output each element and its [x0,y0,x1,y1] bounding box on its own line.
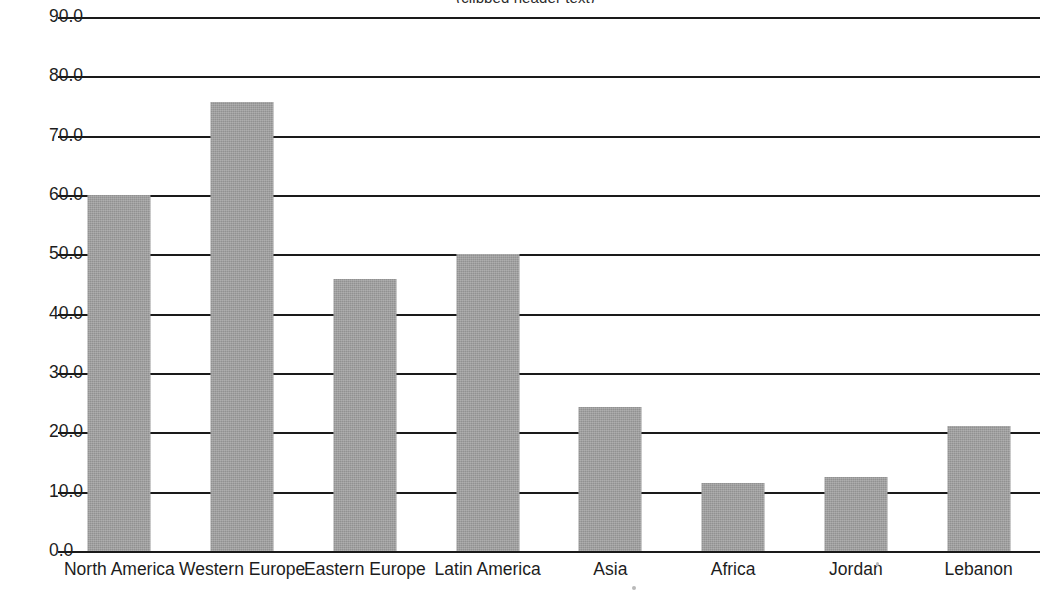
plot-area [58,17,1040,551]
x-axis-label: Jordan [829,560,883,579]
x-axis-label: Asia [593,560,627,579]
bar[interactable] [211,102,274,551]
bar-slot [917,17,1040,551]
x-axis-category-labels: North AmericaWestern EuropeEastern Europ… [58,560,1040,590]
bar-slot [181,17,304,551]
bar-slot [304,17,427,551]
bar-slot [672,17,795,551]
bar[interactable] [456,254,519,551]
bar[interactable] [824,477,887,551]
bar-chart-figure: (clipped header text) 90.080.070.060.050… [0,0,1051,601]
bar-slot [795,17,918,551]
bar[interactable] [579,407,642,551]
bar[interactable] [88,195,151,551]
bar[interactable] [947,426,1010,551]
x-axis-label: North America [64,560,175,579]
x-axis-label: Africa [711,560,756,579]
scan-speck-jordan [876,562,879,566]
bar[interactable] [333,279,396,551]
x-axis-label: Lebanon [945,560,1013,579]
chart-title: (clipped header text) [0,0,1051,3]
bar-slot [426,17,549,551]
bar[interactable] [702,483,765,551]
x-axis-label: Latin America [435,560,541,579]
bar-slot [549,17,672,551]
x-axis-label: Western Europe [179,560,305,579]
bars-group [58,17,1040,551]
gridline-0.0 [58,551,1040,553]
scan-speck-asia [632,586,636,590]
bar-slot [58,17,181,551]
x-axis-label: Eastern Europe [304,560,426,579]
